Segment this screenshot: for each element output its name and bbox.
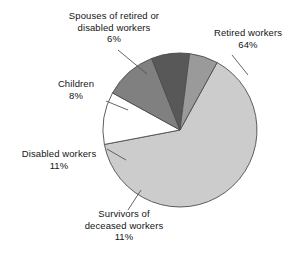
pie-label-spouses-value: 6% (52, 33, 176, 45)
pie-label-retired-workers: Retired workers 64% (198, 27, 298, 50)
pie-label-survivors-value: 11% (62, 231, 186, 243)
pie-label-children-value: 8% (34, 90, 118, 102)
pie-label-disabled-workers-value: 11% (6, 160, 112, 172)
pie-label-survivors-of-deceased-workers: Survivors of deceased workers 11% (62, 208, 186, 243)
pie-label-spouses-of-retired-or-disabled-workers: Spouses of retired or disabled workers 6… (52, 10, 176, 45)
pie-label-disabled-workers: Disabled workers 11% (6, 148, 112, 171)
pie-slices (103, 53, 257, 207)
leader-line-survivors (128, 190, 141, 210)
pie-label-survivors-line1: Survivors of (62, 208, 186, 220)
pie-label-retired-workers-value: 64% (198, 39, 298, 51)
pie-label-children-line1: Children (34, 78, 118, 90)
pie-chart: Spouses of retired or disabled workers 6… (0, 0, 305, 258)
pie-label-children: Children 8% (34, 78, 118, 101)
pie-label-disabled-workers-line1: Disabled workers (6, 148, 112, 160)
pie-label-spouses-line1: Spouses of retired or (52, 10, 176, 22)
pie-label-survivors-line2: deceased workers (62, 220, 186, 232)
leader-line-retired-workers (232, 55, 248, 75)
pie-label-spouses-line2: disabled workers (52, 22, 176, 34)
pie-label-retired-workers-line1: Retired workers (198, 27, 298, 39)
